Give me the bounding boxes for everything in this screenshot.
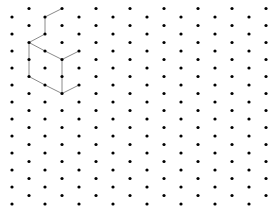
grid-dot — [179, 151, 182, 154]
grid-dot — [162, 24, 165, 27]
grid-dot — [247, 202, 250, 205]
grid-dot — [128, 143, 131, 146]
grid-dot — [247, 66, 250, 69]
grid-dot — [111, 100, 114, 103]
grid-dot — [213, 15, 216, 18]
grid-dot — [213, 49, 216, 52]
grid-dot — [213, 202, 216, 205]
grid-dot — [128, 24, 131, 27]
isometric-dot-grid — [0, 0, 277, 211]
grid-dot — [27, 109, 30, 112]
grid-dots — [10, 7, 267, 206]
grid-dot — [10, 117, 13, 120]
grid-dot — [111, 151, 114, 154]
grid-dot — [179, 49, 182, 52]
grid-dot — [230, 160, 233, 163]
grid-dot — [77, 83, 80, 86]
grid-dot — [196, 75, 199, 78]
grid-dot — [27, 160, 30, 163]
grid-dot — [264, 24, 267, 27]
grid-dot — [247, 117, 250, 120]
grid-dot — [196, 58, 199, 61]
grid-dot — [179, 83, 182, 86]
grid-dot — [128, 160, 131, 163]
grid-dot — [264, 109, 267, 112]
grid-dot — [111, 66, 114, 69]
shape-edge — [29, 9, 79, 60]
grid-dot — [145, 117, 148, 120]
grid-dot — [145, 66, 148, 69]
grid-dot — [230, 177, 233, 180]
grid-dot — [77, 32, 80, 35]
grid-dot — [111, 202, 114, 205]
grid-dot — [77, 66, 80, 69]
grid-dot — [145, 49, 148, 52]
grid-dot — [196, 143, 199, 146]
grid-dot — [60, 58, 63, 61]
grid-dot — [264, 41, 267, 44]
grid-dot — [128, 177, 131, 180]
grid-dot — [60, 160, 63, 163]
grid-dot — [162, 160, 165, 163]
grid-dot — [247, 32, 250, 35]
grid-dot — [145, 185, 148, 188]
grid-dot — [77, 100, 80, 103]
grid-dot — [145, 32, 148, 35]
grid-dot — [196, 7, 199, 10]
grid-dot — [27, 24, 30, 27]
grid-dot — [10, 202, 13, 205]
grid-dot — [162, 126, 165, 129]
grid-dot — [60, 177, 63, 180]
grid-dot — [213, 66, 216, 69]
grid-dot — [230, 194, 233, 197]
grid-dot — [94, 194, 97, 197]
grid-dot — [264, 75, 267, 78]
grid-dot — [10, 15, 13, 18]
grid-dot — [60, 41, 63, 44]
grid-dot — [230, 7, 233, 10]
grid-dot — [43, 185, 46, 188]
grid-dot — [179, 32, 182, 35]
grid-dot — [264, 92, 267, 95]
grid-dot — [230, 109, 233, 112]
shape-edge — [29, 43, 79, 94]
grid-dot — [128, 194, 131, 197]
grid-dot — [43, 117, 46, 120]
grid-dot — [43, 66, 46, 69]
grid-dot — [196, 92, 199, 95]
grid-dot — [111, 134, 114, 137]
grid-dot — [111, 15, 114, 18]
grid-dot — [162, 194, 165, 197]
grid-dot — [213, 100, 216, 103]
grid-dot — [111, 32, 114, 35]
grid-dot — [196, 177, 199, 180]
grid-dot — [128, 41, 131, 44]
grid-dot — [60, 109, 63, 112]
grid-dot — [27, 7, 30, 10]
grid-dot — [43, 202, 46, 205]
grid-dot — [111, 168, 114, 171]
grid-dot — [230, 126, 233, 129]
grid-dot — [145, 15, 148, 18]
grid-dot — [213, 151, 216, 154]
grid-dot — [179, 100, 182, 103]
grid-dot — [213, 134, 216, 137]
grid-dot — [213, 32, 216, 35]
grid-dot — [162, 7, 165, 10]
grid-dot — [145, 100, 148, 103]
grid-dot — [230, 92, 233, 95]
grid-dot — [27, 58, 30, 61]
grid-dot — [264, 58, 267, 61]
grid-dot — [94, 41, 97, 44]
grid-dot — [77, 202, 80, 205]
grid-dot — [230, 58, 233, 61]
grid-dot — [10, 66, 13, 69]
grid-dot — [77, 168, 80, 171]
grid-dot — [111, 83, 114, 86]
grid-dot — [264, 160, 267, 163]
grid-dot — [196, 24, 199, 27]
grid-dot — [27, 126, 30, 129]
grid-dot — [145, 134, 148, 137]
grid-dot — [196, 41, 199, 44]
grid-dot — [10, 168, 13, 171]
